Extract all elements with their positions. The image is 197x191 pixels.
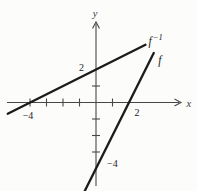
x-tick-label: 2 (135, 107, 140, 118)
y-tick-label: 2 (79, 62, 84, 73)
function-graph-svg: −422−4f−1fxy (0, 0, 197, 191)
line-f-inverse (8, 45, 146, 114)
label-f-inverse: f−1 (149, 32, 163, 48)
y-axis-label: y (92, 8, 98, 19)
y-tick-label: −4 (107, 158, 118, 169)
x-tick-label: −4 (23, 110, 34, 121)
function-inverse-figure: −422−4f−1fxy (0, 0, 197, 191)
label-f: f (158, 54, 163, 67)
line-f (84, 53, 153, 191)
x-axis-label: x (186, 98, 192, 109)
